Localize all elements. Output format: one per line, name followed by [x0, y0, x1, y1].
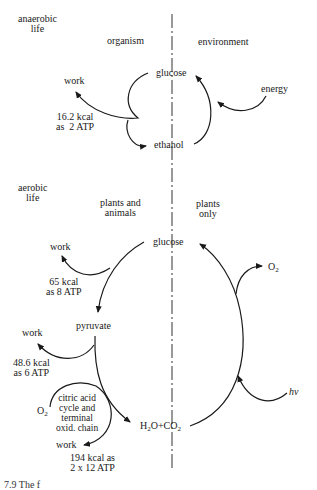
yield-label-2: 48.6 kcal as 6 ATP: [13, 358, 50, 378]
environment-heading: environment: [198, 37, 249, 47]
plants-and-animals-heading: plants and animals: [100, 198, 141, 218]
yield-label-1: 65 kcal as 8 ATP: [46, 277, 82, 297]
glucose-label: glucose: [156, 68, 187, 78]
work-label-3: work: [56, 440, 77, 450]
arrow-glucose-to-pyruvate: [98, 242, 144, 312]
energy-label: energy: [261, 84, 288, 94]
arrow-h2o-co2-to-glucose: [190, 244, 243, 426]
arrow-pyruvate-to-h2o-co2: [95, 336, 130, 422]
anaerobic-life-label: anaerobic life: [18, 14, 57, 34]
arrow-light-input: [238, 376, 287, 401]
h2o-co2-label: H2O+CO2: [140, 421, 181, 431]
light-hv-label: hν: [289, 387, 298, 397]
arrow-energy-input: [218, 96, 266, 111]
o2-output-label: O2: [268, 262, 279, 272]
arrow-work1: [62, 256, 110, 275]
o-plus-co-symbol: O+CO: [151, 420, 178, 431]
aerobic-life-label: aerobic life: [18, 183, 47, 203]
arrow-ethanol-to-glucose: [194, 76, 211, 144]
figure-caption: 7.9 The f: [4, 479, 40, 490]
glucose-label-aerobic: glucose: [153, 237, 184, 247]
o2-input-subscript: 2: [44, 410, 48, 418]
citric-acid-cycle-label: citric acid cycle and terminal oxid. cha…: [56, 393, 98, 433]
work-label-2: work: [22, 328, 43, 338]
pyruvate-label: pyruvate: [76, 321, 111, 331]
arrow-to-ethanol: [127, 120, 146, 146]
o2-output-subscript: 2: [275, 266, 279, 274]
co2-subscript: 2: [178, 425, 182, 433]
work-label-1: work: [50, 242, 71, 252]
o2-input-label: O2: [37, 406, 48, 416]
work-label: work: [64, 76, 85, 86]
organism-heading: organism: [107, 36, 144, 46]
yield-label-3: 194 kcal as 2 x 12 ATP: [70, 453, 115, 473]
arrow-o2-output: [236, 266, 262, 294]
plants-only-heading: plants only: [196, 199, 220, 219]
yield-label: 16.2 kcal as 2 ATP: [56, 112, 94, 132]
ethanol-label: ethanol: [154, 140, 183, 150]
